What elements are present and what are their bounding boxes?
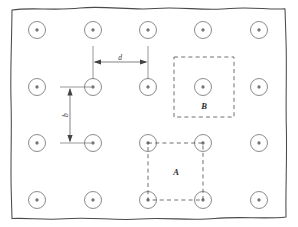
well-field-diagram: d b B A	[0, 0, 298, 227]
well-symbol	[251, 22, 268, 39]
dimension-label-b: b	[61, 113, 70, 117]
well-symbol	[85, 22, 102, 39]
well-symbol	[29, 135, 46, 152]
well-symbol	[251, 192, 268, 209]
well-symbol	[251, 135, 268, 152]
well-symbol	[251, 79, 268, 96]
well-symbol	[29, 22, 46, 39]
well-symbol	[195, 22, 212, 39]
well-symbol	[195, 79, 212, 96]
well-symbol	[140, 22, 157, 39]
well-symbol	[85, 192, 102, 209]
diagram-canvas: d b B A	[0, 0, 298, 227]
well-symbol	[29, 79, 46, 96]
well-symbol	[29, 192, 46, 209]
dimension-label-d: d	[118, 53, 122, 62]
well-symbol	[140, 79, 157, 96]
region-label-a: A	[172, 167, 179, 177]
region-label-b: B	[200, 101, 207, 111]
site-boundary	[11, 7, 287, 219]
